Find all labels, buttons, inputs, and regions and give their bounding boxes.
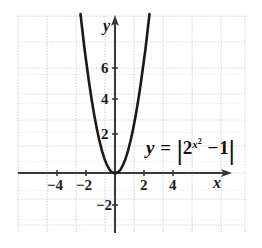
math-graph-figure: −4 −2 2 4 6 4 2 −2 y x y = |2x2 −1| [0,0,262,248]
equation-annotation: y = |2x2 −1| [146,138,235,161]
x-tick-label-4: 4 [169,178,177,193]
x-tick-label-neg2: −2 [76,178,92,193]
x-axis-label: x [213,175,221,191]
grid-background [18,16,246,233]
equation-lhs: y [146,137,154,158]
y-tick-label-2: 2 [101,127,109,142]
equation-exponent: x2 [192,138,202,150]
x-tick-label-2: 2 [140,178,148,193]
x-tick-label-neg4: −4 [47,178,63,193]
equation-constant: 1 [219,137,229,158]
y-tick-label-4: 4 [101,92,109,107]
equation-minus: − [206,137,219,158]
equation-equals: = [159,137,172,158]
equation-base: 2 [183,137,193,158]
graph-canvas [0,0,262,248]
y-tick-label-6: 6 [101,61,109,76]
equation-close-bar: | [229,140,235,161]
y-tick-label-neg2: −2 [96,198,112,213]
equation-exponent-power: 2 [198,137,202,146]
y-axis-label: y [103,18,110,34]
